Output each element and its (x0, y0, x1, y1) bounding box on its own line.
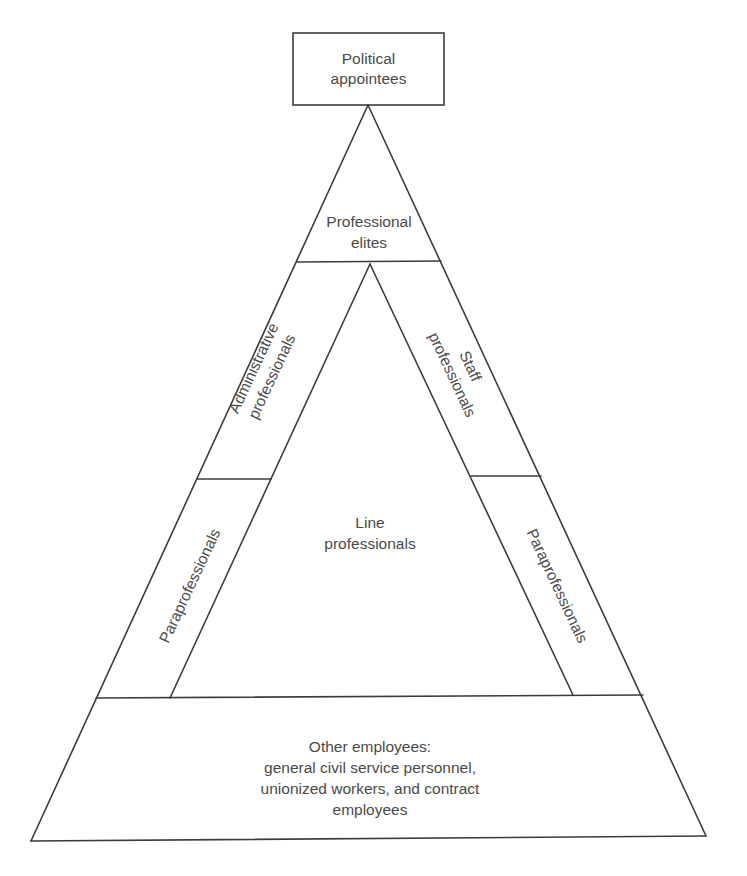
outer-left-edge (31, 105, 368, 841)
other-employees-region: Other employees: general civil service p… (261, 738, 481, 818)
left-paraprofessionals-label: Paraprofessionals (156, 526, 224, 646)
left-paraprofessionals-region: Paraprofessionals (156, 526, 224, 646)
other-employees-divider (96, 695, 643, 698)
inner-triangle (170, 264, 573, 698)
professional-elites-label-line2: elites (351, 234, 387, 251)
other-employees-label-line3: unionized workers, and contract (261, 780, 481, 797)
pyramid-base-line (31, 836, 706, 841)
political-appointees-label-line2: appointees (331, 70, 407, 87)
pyramid-diagram: Political appointees Professional elites… (0, 0, 747, 876)
political-appointees-node: Political appointees (293, 33, 444, 105)
line-professionals-label-line2: professionals (324, 535, 416, 552)
elites-divider (297, 261, 441, 262)
other-employees-label-line1: Other employees: (309, 738, 431, 755)
political-appointees-box (293, 33, 444, 105)
line-professionals-label-line1: Line (355, 514, 384, 531)
professional-elites-label-line1: Professional (326, 213, 411, 230)
administrative-professionals-region: Administrative professionals (225, 320, 300, 424)
political-appointees-label-line1: Political (342, 50, 395, 67)
other-employees-label-line2: general civil service personnel, (264, 759, 476, 776)
right-paraprofessionals-label: Paraprofessionals (524, 526, 592, 646)
right-paraprofessionals-region: Paraprofessionals (524, 526, 592, 646)
other-employees-label-line4: employees (333, 801, 408, 818)
outer-right-edge (368, 105, 706, 836)
